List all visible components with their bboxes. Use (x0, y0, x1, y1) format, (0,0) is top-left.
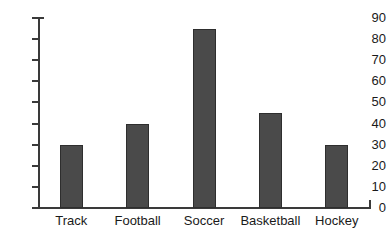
bar-football (126, 124, 149, 208)
plot-area (38, 18, 370, 208)
bar-track (60, 145, 83, 208)
x-axis-label-hockey: Hockey (277, 213, 391, 228)
bar-basketball (259, 113, 282, 208)
bar-hockey (325, 145, 348, 208)
bar-soccer (193, 29, 216, 208)
